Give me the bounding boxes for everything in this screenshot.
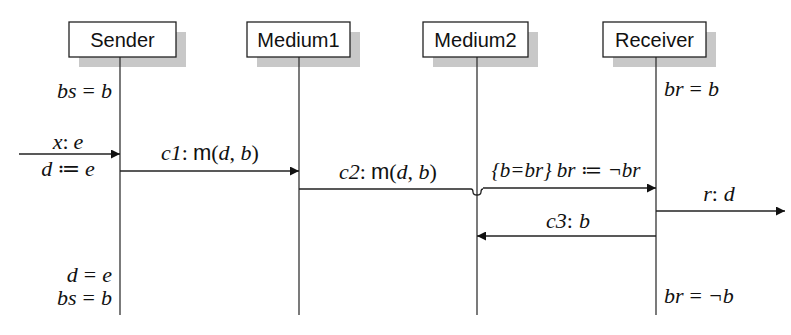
participant-sender: Sender — [69, 22, 176, 57]
sequence-diagram: Sender Medium1 Medium2 Receiver bs=b br=… — [0, 0, 791, 335]
participant-medium1: Medium1 — [247, 22, 350, 57]
participant-medium2: Medium2 — [423, 22, 528, 57]
receiver-final-state: br=¬b — [664, 283, 734, 308]
c2-line — [299, 189, 483, 195]
c3-label: c3:b — [546, 208, 590, 233]
sender-final-state-bs: bs=b — [57, 285, 112, 310]
participant-receiver: Receiver — [603, 22, 706, 57]
input-label: x:e — [52, 129, 84, 154]
sender-final-state-d: d=e — [67, 262, 112, 287]
receiver-initial-state: br=b — [664, 76, 719, 101]
assign-label: d≔e — [41, 156, 95, 181]
c1-label: c1:m(d, b) — [161, 140, 259, 165]
participant-label: Medium1 — [257, 29, 339, 51]
sender-initial-state: bs=b — [57, 78, 112, 103]
c2-label: c2:m(d, b) — [339, 159, 437, 184]
participant-label: Sender — [90, 29, 155, 51]
participant-label: Medium2 — [434, 29, 516, 51]
output-label: r:d — [703, 181, 736, 206]
participant-label: Receiver — [615, 29, 694, 51]
guard-label: {b=br} br ≔ ¬br — [491, 158, 641, 182]
